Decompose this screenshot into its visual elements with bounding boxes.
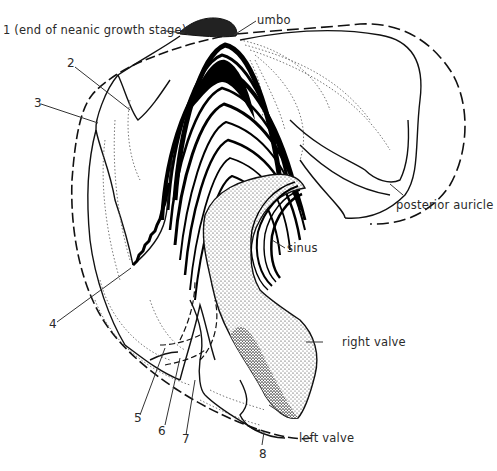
label-3: 3 [34,97,42,109]
label-posterior-auricle: posterior auricle [396,200,494,212]
label-2: 2 [67,57,75,69]
label-left-valve: left valve [299,433,354,445]
shell-illustration [0,0,497,471]
umbo-beak [180,18,237,37]
label-7: 7 [182,433,190,445]
label-umbo: umbo [257,15,291,27]
label-sinus: sinus [287,243,318,255]
label-neanic-growth-stage: 1 (end of neanic growth stage) [3,25,186,37]
label-4: 4 [49,318,57,330]
label-8: 8 [259,448,267,460]
label-right-valve: right valve [342,337,406,349]
label-6: 6 [158,425,166,437]
label-5: 5 [134,412,142,424]
